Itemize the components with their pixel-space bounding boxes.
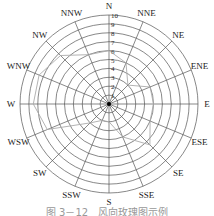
ring-label: 7 — [111, 39, 115, 47]
direction-label: NE — [172, 30, 184, 40]
figure-caption: 图 3－12 风向玫瑰图示例 — [0, 204, 214, 216]
direction-label: NW — [32, 30, 47, 40]
direction-label: ENE — [191, 61, 209, 71]
direction-label: SSW — [62, 190, 81, 200]
ring-label: 9 — [111, 21, 115, 29]
direction-label: E — [204, 99, 210, 109]
center-dot — [107, 102, 111, 106]
direction-label: SE — [173, 168, 184, 178]
ring-label: 2 — [111, 83, 115, 91]
ring-label: 8 — [111, 30, 115, 38]
direction-label: W — [7, 99, 16, 109]
wind-rose-diagram: NNNENEENEEESESESSESSSWSWWSWWWNWNWNNW1234… — [0, 0, 214, 216]
direction-label: N — [106, 1, 113, 11]
direction-label: NNE — [137, 8, 156, 18]
direction-label: WSW — [7, 137, 30, 147]
direction-label: SW — [33, 168, 47, 178]
direction-label: WNW — [7, 61, 31, 71]
direction-label: SSE — [139, 190, 155, 200]
ring-label: 3 — [111, 74, 115, 82]
direction-label: ESE — [192, 137, 209, 147]
ring-label: 10 — [111, 12, 119, 20]
direction-label: NNW — [61, 8, 83, 18]
ring-label: 5 — [111, 57, 115, 65]
ring-label: 1 — [111, 92, 115, 100]
ring-label: 4 — [111, 65, 115, 73]
